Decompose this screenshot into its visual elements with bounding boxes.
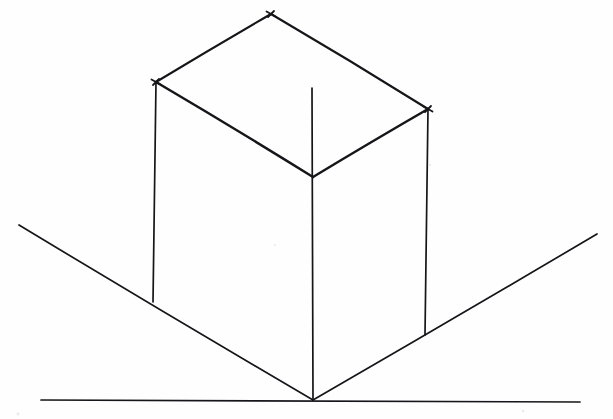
- drawing-canvas: Hand-drawn cuboid on a ground plane A fr…: [0, 0, 613, 419]
- line-drawing-figure: Hand-drawn cuboid on a ground plane A fr…: [0, 0, 613, 419]
- paper-background: [0, 0, 613, 419]
- front-vertical-edge: [312, 88, 313, 400]
